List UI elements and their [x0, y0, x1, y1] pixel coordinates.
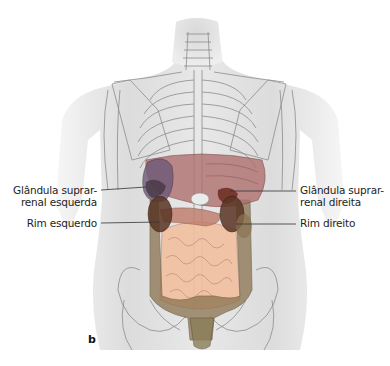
label-right-kidney: Rim direito — [300, 217, 355, 229]
panel-letter: b — [88, 333, 96, 346]
label-line: Glândula suprar- — [13, 184, 97, 196]
left-kidney — [148, 196, 172, 232]
label-right-adrenal-gland: Glândula suprar- renal direita — [300, 184, 384, 208]
label-line: renal direita — [300, 196, 384, 208]
label-line: Rim esquerdo — [27, 217, 97, 229]
label-left-kidney: Rim esquerdo — [27, 217, 97, 229]
label-left-adrenal-gland: Glândula suprar- renal esquerda — [13, 184, 97, 208]
label-line: renal esquerda — [13, 196, 97, 208]
rectum — [190, 318, 214, 349]
anatomy-illustration — [0, 0, 390, 366]
label-line: Rim direito — [300, 217, 355, 229]
label-line: Glândula suprar- — [300, 184, 384, 196]
